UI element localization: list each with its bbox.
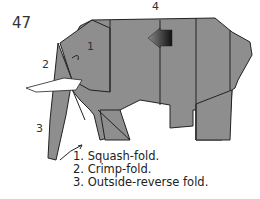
callout-2: 2: [42, 58, 49, 71]
legend-item: 3. Outside-reverse fold.: [73, 176, 208, 189]
fold-legend: 1. Squash-fold. 2. Crimp-fold. 3. Outsid…: [73, 150, 208, 189]
callout-4: 4: [152, 0, 159, 13]
callout-1: 1: [87, 40, 94, 53]
origami-diagram: 47: [0, 0, 260, 199]
callout-3: 3: [36, 122, 43, 135]
